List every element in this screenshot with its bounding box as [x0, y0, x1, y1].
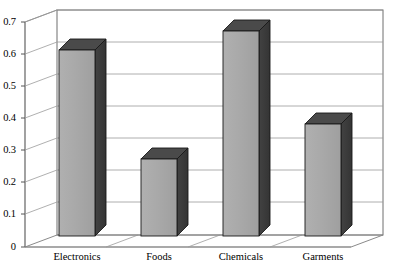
y-axis-tick-0.3: 0.3	[0, 145, 16, 156]
y-axis-tick-0.5: 0.5	[0, 81, 16, 92]
bar-chart-figure: 0.7 0.6 0.5 0.4 0.3 0.2 0.1 0 Electronic…	[0, 0, 393, 265]
y-axis-tick-0.1: 0.1	[0, 209, 16, 220]
x-axis-label-foods: Foods	[115, 251, 203, 262]
bar-chemicals	[223, 20, 270, 236]
floor-separators	[57, 235, 383, 247]
bar-garments	[305, 113, 352, 236]
y-axis-tick-0.7: 0.7	[0, 17, 16, 28]
x-axis-label-electronics: Electronics	[33, 251, 121, 262]
x-axis-label-garments: Garments	[279, 251, 367, 262]
chart-canvas	[0, 0, 393, 265]
y-axis-tick-marks	[21, 22, 25, 247]
y-axis-tick-0: 0	[0, 242, 16, 253]
bar-foods	[141, 148, 188, 236]
x-axis-label-chemicals: Chemicals	[197, 251, 285, 262]
bar-electronics	[59, 39, 106, 236]
y-axis-tick-0.2: 0.2	[0, 177, 16, 188]
y-axis-tick-0.4: 0.4	[0, 113, 16, 124]
y-axis-tick-0.6: 0.6	[0, 49, 16, 60]
